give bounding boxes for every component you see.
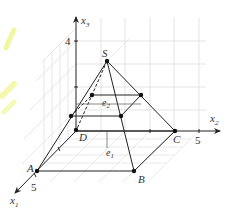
- back-wall-grid: [76, 18, 206, 131]
- back-wall-diagonals: [107, 38, 130, 61]
- labels: x3 4 x2 5 x1 5 S A B C D e2 e1: [9, 14, 219, 208]
- pyramid-diagram: x3 4 x2 5 x1 5 S A B C D e2 e1: [0, 0, 232, 208]
- vertex-label-B: B: [138, 173, 145, 185]
- point-A: [35, 169, 39, 173]
- x1-tick-5: 5: [31, 181, 37, 193]
- x2-axis-label: x2: [209, 112, 219, 127]
- plane-label-e2: e2: [102, 97, 110, 110]
- vertex-label-C: C: [173, 133, 181, 145]
- x1-axis-label: x1: [9, 194, 18, 208]
- point-mid-4: [69, 114, 73, 118]
- vertex-label-A: A: [26, 162, 34, 174]
- plane-label-e1: e1: [106, 147, 114, 160]
- point-S: [105, 59, 109, 63]
- point-B: [132, 169, 136, 173]
- point-mid-2: [139, 93, 143, 97]
- point-mid-3: [119, 114, 123, 118]
- vertex-label-S: S: [102, 47, 108, 59]
- highlighter-marks: [2, 30, 14, 112]
- vertex-label-D: D: [78, 131, 87, 143]
- x3-tick-4: 4: [65, 35, 71, 47]
- side-wall-grid: [22, 28, 76, 164]
- point-mid-1: [90, 93, 94, 97]
- x3-axis-label: x3: [80, 14, 90, 29]
- x2-tick-5: 5: [195, 134, 201, 146]
- point-D: [74, 128, 78, 132]
